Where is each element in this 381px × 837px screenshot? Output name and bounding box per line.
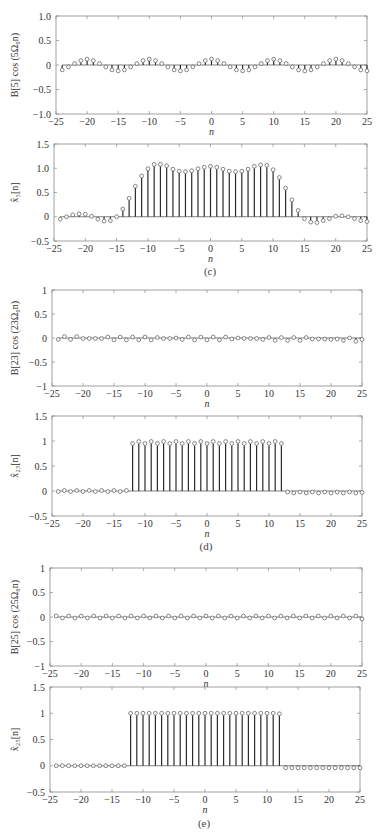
stem-marker	[365, 220, 369, 224]
stem-marker	[249, 440, 253, 444]
stem-marker	[167, 614, 171, 618]
y-axis-label: B[5] cos (5Ω₀n)	[9, 33, 21, 97]
stem-marker	[286, 339, 290, 343]
stem-marker	[241, 69, 245, 73]
stem-marker	[334, 214, 338, 218]
stem-marker	[108, 219, 112, 223]
y-tick-label: 0.5	[39, 35, 52, 46]
stem-marker	[353, 65, 357, 69]
stem-marker	[96, 217, 100, 221]
stem-marker	[86, 616, 90, 620]
stem-marker	[267, 442, 271, 446]
y-axis-label: x̂₂₅[n]	[9, 728, 20, 752]
y-tick-label: −0.5	[31, 236, 49, 247]
stem-marker	[152, 162, 156, 166]
stem-marker	[172, 68, 176, 72]
y-tick-label: −0.5	[27, 636, 45, 647]
stem-marker	[92, 614, 96, 618]
y-tick-label: 0.5	[35, 461, 48, 472]
x-tick-label: −5	[175, 116, 186, 127]
stem-marker	[209, 711, 213, 715]
stem-marker	[335, 337, 339, 341]
stem-marker	[141, 711, 145, 715]
stem-marker	[297, 68, 301, 72]
stem-marker	[69, 490, 73, 494]
stem-marker	[156, 442, 160, 446]
stem-marker	[123, 616, 127, 620]
stem-marker	[209, 164, 213, 168]
stem-marker	[247, 711, 251, 715]
stem-marker	[341, 614, 345, 618]
stem-marker	[104, 65, 108, 69]
stem-marker	[352, 766, 356, 770]
x-tick-label: 25	[362, 243, 372, 254]
y-tick-label: 1.0	[39, 11, 52, 22]
stem-marker	[365, 69, 369, 73]
stem-marker	[129, 65, 133, 69]
stem-marker	[73, 62, 77, 66]
stem-marker	[249, 337, 253, 341]
stem-marker	[131, 442, 135, 446]
stem-marker	[298, 616, 302, 620]
stem-marker	[166, 65, 170, 69]
y-tick-label: 1.5	[33, 682, 46, 693]
stem-marker	[277, 176, 281, 180]
stem-marker	[205, 338, 209, 342]
stem-marker	[75, 335, 79, 339]
x-tick-label: −10	[135, 794, 151, 805]
stem-marker	[353, 217, 357, 221]
stem-marker	[229, 614, 233, 618]
stem-marker	[260, 616, 264, 620]
stem-marker	[197, 711, 201, 715]
stem-marker	[67, 65, 71, 69]
stem-marker	[85, 57, 89, 61]
stem-marker	[303, 217, 307, 221]
x-tick-label: 25	[357, 518, 367, 529]
stem-marker	[173, 616, 177, 620]
stem-marker	[272, 57, 276, 61]
x-tick-label: 25	[357, 668, 367, 679]
stem-marker	[63, 489, 67, 493]
stem-marker	[234, 711, 238, 715]
stem-marker	[110, 68, 114, 72]
stem-marker	[302, 766, 306, 770]
stem-marker	[92, 764, 96, 768]
stem-marker	[112, 338, 116, 342]
stem-marker	[215, 165, 219, 169]
stem-marker	[54, 614, 58, 618]
stem-marker	[311, 337, 315, 341]
stem-marker	[65, 215, 69, 219]
stem-marker	[346, 215, 350, 219]
stem-marker	[171, 167, 175, 171]
x-tick-label: 25	[357, 388, 367, 399]
stem-marker	[94, 490, 98, 494]
y-tick-label: 0	[42, 333, 47, 344]
stem-marker	[316, 614, 320, 618]
stem-marker	[205, 442, 209, 446]
stem-marker	[190, 169, 194, 173]
stem-marker	[143, 335, 147, 339]
stem-marker	[135, 616, 139, 620]
x-tick-label: 20	[326, 518, 336, 529]
y-tick-label: −0.5	[27, 787, 45, 798]
stem-marker	[259, 711, 263, 715]
stem-marker	[321, 219, 325, 223]
stem-marker	[165, 164, 169, 168]
stem-marker	[83, 212, 87, 216]
stem-marker	[106, 490, 110, 494]
stem-marker	[193, 442, 197, 446]
stem-marker	[79, 764, 83, 768]
stem-marker	[328, 217, 332, 221]
stem-marker	[60, 68, 64, 72]
x-axis-label: n	[209, 126, 214, 137]
stem-marker	[102, 219, 106, 223]
stem-marker	[228, 65, 232, 69]
stem-marker	[315, 65, 319, 69]
stem-plot-e-top: −25−20−15−10−50510152025−1−0.500.51nB[25…	[9, 563, 367, 690]
stem-marker	[280, 336, 284, 340]
stem-marker	[234, 68, 238, 72]
stem-marker	[261, 440, 265, 444]
stem-marker	[310, 616, 314, 620]
stem-marker	[73, 764, 77, 768]
stem-marker	[98, 616, 102, 620]
